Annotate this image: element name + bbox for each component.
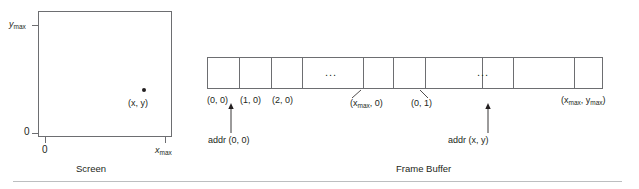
frame-buffer-divider [425,58,426,88]
screen-rectangle [38,11,172,137]
bottom-divider-rule [13,181,622,182]
frame-buffer-cell-label-1-0: (1, 0) [240,95,261,105]
screen-xmax-tick [165,137,166,143]
screen-x-zero-tick [45,137,46,143]
frame-buffer-caption: Frame Buffer [396,163,451,174]
arrow-addr-start-head [228,103,233,109]
frame-buffer-divider [393,58,394,88]
screen-pixel-label: (x, y) [128,98,148,108]
screen-y-zero-tick [32,133,38,134]
frame-buffer-strip [207,57,603,89]
frame-buffer-cell-label-xmax-0: (xmax, 0) [350,98,383,109]
screen-caption: Screen [76,163,106,174]
leader-line-0-1 [420,90,428,98]
arrow-addr-xy-head [485,103,490,109]
frame-buffer-divider [271,58,272,88]
screen-y-zero-label: 0 [24,127,30,137]
frame-buffer-divider [574,58,575,88]
frame-buffer-divider [239,58,240,88]
screen-ymax-label: ymax [9,19,26,30]
frame-buffer-divider [302,58,303,88]
addr-start-label: addr (0, 0) [208,135,250,145]
frame-buffer-divider [513,58,514,88]
frame-buffer-cell-label-0-1: (0, 1) [411,98,432,108]
leader-line-xmax-0 [352,90,361,98]
addr-xy-label: addr (x, y) [448,135,489,145]
frame-buffer-divider [363,58,364,88]
screen-xmax-label: xmax [155,145,172,156]
frame-buffer-cell-label-xmax-ymax: (xmax, ymax) [561,95,606,106]
screen-x-zero-label: 0 [42,145,48,155]
frame-buffer-ellipsis-right: ... [477,67,489,78]
screen-pixel-dot [142,88,146,92]
frame-buffer-cell-label-2-0: (2, 0) [272,95,293,105]
frame-buffer-ellipsis-left: ... [325,67,337,78]
screen-ymax-tick [32,25,38,26]
figure-screen-to-framebuffer: ymax 0 0 xmax (x, y) Screen ... ... (0, … [0,0,639,189]
frame-buffer-cell-label-0-0: (0, 0) [207,95,228,105]
